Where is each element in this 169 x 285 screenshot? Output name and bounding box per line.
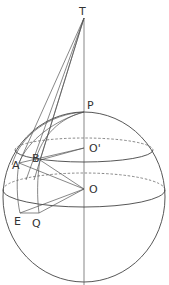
label-O: O xyxy=(89,183,98,196)
radial-lines xyxy=(19,148,84,213)
label-P: P xyxy=(87,99,94,112)
label-Q: Q xyxy=(32,217,41,230)
label-T: T xyxy=(78,5,86,18)
label-E: E xyxy=(14,215,21,228)
meridian-arcs xyxy=(12,112,84,213)
sphere-diagram: T P O' O A B E Q xyxy=(0,0,169,285)
label-B: B xyxy=(32,152,40,165)
label-A: A xyxy=(12,159,20,172)
label-O-prime: O' xyxy=(89,142,101,155)
